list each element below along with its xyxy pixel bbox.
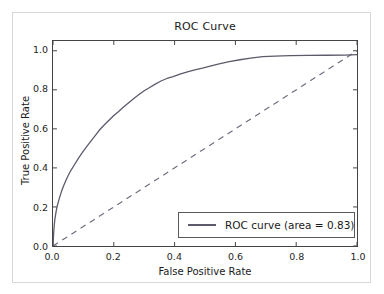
x-tick-label: 0.2	[96, 251, 130, 262]
x-tick-label: 0.4	[157, 251, 191, 262]
legend-line-swatch	[188, 224, 216, 226]
x-tick-label: 0.0	[35, 251, 69, 262]
chart-title: ROC Curve	[52, 20, 358, 33]
x-axis-tick-labels: 0.00.20.40.60.81.0	[52, 251, 358, 265]
y-axis-label: True Positive Rate	[20, 71, 31, 211]
chart-legend: ROC curve (area = 0.83)	[178, 212, 355, 238]
x-tick-label: 0.6	[219, 251, 253, 262]
x-axis-label: False Positive Rate	[52, 266, 358, 277]
legend-entry-label: ROC curve (area = 0.83)	[225, 219, 354, 231]
figure-canvas: ROC Curve 0.00.20.40.60.81.0 0.00.20.40.…	[0, 0, 384, 294]
x-tick-label: 1.0	[341, 251, 375, 262]
x-tick-label: 0.8	[280, 251, 314, 262]
y-tick-label: 1.0	[22, 45, 48, 55]
